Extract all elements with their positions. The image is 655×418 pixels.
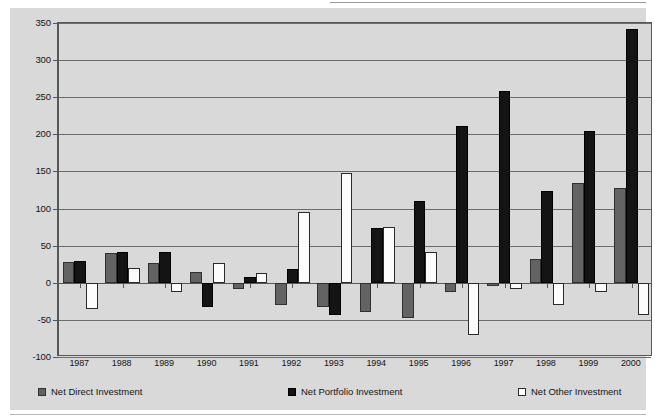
- bar-direct-1993: [317, 283, 329, 307]
- bar-direct-1988: [105, 253, 117, 283]
- bar-portfolio-1996: [456, 126, 468, 283]
- legend-swatch-portfolio-icon: [288, 388, 296, 396]
- x-tick-label: 1994: [366, 358, 386, 368]
- bar-portfolio-1998: [541, 191, 553, 283]
- y-tick-label: 350: [35, 17, 51, 28]
- bar-portfolio-1995: [414, 201, 426, 283]
- gridline: [59, 134, 651, 135]
- bar-portfolio-2000: [626, 29, 638, 283]
- y-tick-label: 300: [35, 54, 51, 65]
- bar-portfolio-1990: [202, 283, 214, 307]
- y-tick-label: 100: [35, 202, 51, 213]
- bar-other-1992: [298, 212, 310, 283]
- bar-other-1997: [510, 283, 522, 289]
- bar-other-1987: [86, 283, 98, 309]
- x-tick-label: 1989: [154, 358, 174, 368]
- y-tick-label: 0: [46, 276, 51, 287]
- x-tick-label: 1999: [579, 358, 599, 368]
- bar-direct-1991: [233, 283, 245, 289]
- y-axis-line: [57, 22, 59, 356]
- bar-direct-1992: [275, 283, 287, 305]
- bar-direct-1990: [190, 272, 202, 283]
- bar-other-1995: [425, 252, 437, 283]
- x-tick-label: 1998: [536, 358, 556, 368]
- gridline: [59, 23, 651, 24]
- gridline: [59, 97, 651, 98]
- bar-portfolio-1997: [499, 91, 511, 282]
- bar-other-1993: [341, 173, 353, 283]
- bar-other-1999: [595, 283, 607, 293]
- gridline: [59, 60, 651, 61]
- bar-direct-1999: [572, 183, 584, 282]
- top-rule: [330, 2, 646, 3]
- x-tick: [547, 283, 548, 288]
- x-tick-label: 1990: [197, 358, 217, 368]
- bottom-rule: [10, 414, 646, 415]
- x-tick-label: 1996: [451, 358, 471, 368]
- y-tick-label: 200: [35, 128, 51, 139]
- bar-portfolio-1988: [117, 252, 129, 283]
- x-tick: [165, 283, 166, 288]
- x-tick: [377, 283, 378, 288]
- plot-area: [58, 22, 652, 356]
- x-tick-label: 1992: [282, 358, 302, 368]
- x-tick: [462, 283, 463, 288]
- x-tick-label: 1997: [494, 358, 514, 368]
- bar-portfolio-1991: [244, 277, 256, 283]
- x-tick-label: 1995: [409, 358, 429, 368]
- x-tick: [420, 283, 421, 288]
- bar-direct-1997: [487, 283, 499, 287]
- y-tick-label: 50: [41, 239, 51, 250]
- x-tick-label: 1991: [239, 358, 259, 368]
- bar-portfolio-1994: [371, 228, 383, 283]
- y-tick-label: -50: [38, 313, 51, 324]
- legend-label-other: Net Other Investment: [531, 386, 621, 397]
- chart-figure: 350300250200150100500-50-100 19871988198…: [0, 0, 655, 418]
- x-tick: [505, 283, 506, 288]
- x-tick: [250, 283, 251, 288]
- bar-other-1998: [553, 283, 565, 305]
- bar-other-2000: [638, 283, 650, 315]
- bar-direct-1995: [402, 283, 414, 318]
- legend-item-net-direct-investment: Net Direct Investment: [38, 386, 142, 397]
- gridline: [59, 171, 651, 172]
- gridline: [59, 209, 651, 210]
- gridline: [59, 246, 651, 247]
- chart-panel: 350300250200150100500-50-100 19871988198…: [10, 8, 646, 368]
- bar-direct-1989: [148, 263, 160, 283]
- bar-direct-1994: [360, 283, 372, 313]
- legend-item-net-portfolio-investment: Net Portfolio Investment: [288, 386, 402, 397]
- legend-label-direct: Net Direct Investment: [51, 386, 142, 397]
- x-tick-label: 2000: [621, 358, 641, 368]
- x-tick: [80, 283, 81, 288]
- bar-portfolio-1999: [584, 131, 596, 283]
- legend-swatch-other-icon: [518, 388, 526, 396]
- bar-other-1990: [213, 263, 225, 283]
- bar-portfolio-1992: [287, 269, 299, 282]
- x-tick: [123, 283, 124, 288]
- x-tick: [632, 283, 633, 288]
- y-tick-label: 150: [35, 165, 51, 176]
- y-tick-label: 250: [35, 91, 51, 102]
- bar-direct-1996: [445, 283, 457, 293]
- bar-direct-1987: [63, 262, 75, 283]
- legend-item-net-other-investment: Net Other Investment: [518, 386, 621, 397]
- bar-portfolio-1987: [74, 261, 86, 283]
- bar-portfolio-1989: [159, 252, 171, 283]
- x-tick: [292, 283, 293, 288]
- bar-other-1988: [128, 268, 140, 283]
- x-tick-label: 1988: [112, 358, 132, 368]
- x-tick-label: 1993: [324, 358, 344, 368]
- y-tick-label: -100: [32, 351, 51, 362]
- bar-other-1994: [383, 227, 395, 283]
- bar-other-1991: [256, 273, 268, 283]
- chart-legend: Net Direct Investment Net Portfolio Inve…: [10, 368, 646, 410]
- y-axis-labels: 350300250200150100500-50-100: [10, 22, 55, 356]
- legend-label-portfolio: Net Portfolio Investment: [301, 386, 402, 397]
- bar-other-1996: [468, 283, 480, 335]
- legend-swatch-direct-icon: [38, 388, 46, 396]
- gridline: [59, 320, 651, 321]
- bar-portfolio-1993: [329, 283, 341, 315]
- bar-direct-2000: [614, 188, 626, 283]
- x-tick-label: 1987: [69, 358, 89, 368]
